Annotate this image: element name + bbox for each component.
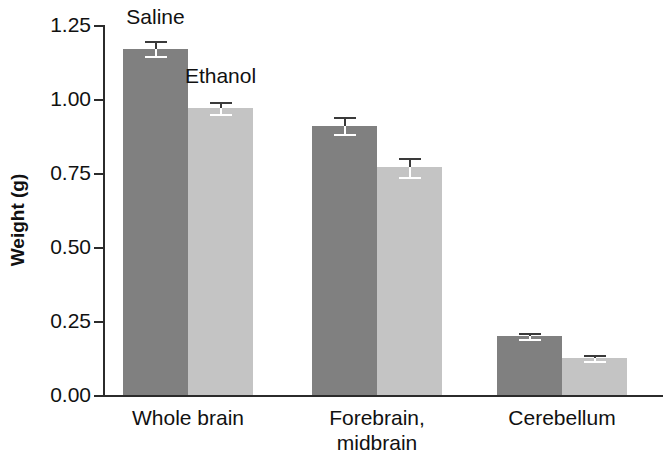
- y-tick-mark: [94, 25, 103, 27]
- error-bar-cap-lower: [210, 114, 232, 116]
- y-tick-label: 0.00: [50, 383, 91, 407]
- error-bar-cap-upper: [584, 355, 606, 357]
- y-tick-mark: [94, 321, 103, 323]
- x-axis-category-label: Whole brain: [132, 405, 244, 430]
- bar: [497, 336, 562, 395]
- x-axis-category-label-line: midbrain: [329, 430, 425, 454]
- y-axis-title: Weight (g): [0, 130, 36, 310]
- y-axis-title-text: Weight (g): [7, 174, 29, 267]
- y-tick-mark: [94, 173, 103, 175]
- x-axis-line: [103, 395, 663, 397]
- bar: [188, 108, 253, 395]
- y-tick-label: 1.00: [50, 87, 91, 111]
- y-tick-mark: [94, 247, 103, 249]
- x-axis-category-label-line: Whole brain: [132, 405, 244, 430]
- x-axis-category-label: Cerebellum: [508, 405, 615, 430]
- y-tick-label: 1.25: [50, 13, 91, 37]
- annotation-saline: Saline: [126, 5, 184, 29]
- error-bar-cap-upper: [145, 41, 167, 43]
- bar: [123, 49, 188, 395]
- error-bar-cap-upper: [399, 158, 421, 160]
- x-axis-category-label: Forebrain,midbrain: [329, 405, 425, 454]
- error-bar-cap-upper: [519, 333, 541, 335]
- annotation-ethanol: Ethanol: [185, 64, 256, 88]
- bar: [562, 358, 627, 395]
- error-bar-cap-upper: [210, 102, 232, 104]
- x-axis-category-label-line: Cerebellum: [508, 405, 615, 430]
- error-bar-cap-upper: [334, 117, 356, 119]
- error-bar-cap-lower: [145, 56, 167, 58]
- y-tick-mark: [94, 99, 103, 101]
- y-tick-mark: [94, 395, 103, 397]
- y-tick-label: 0.50: [50, 235, 91, 259]
- bar: [377, 167, 442, 395]
- y-axis-line: [103, 25, 105, 397]
- y-tick-label: 0.75: [50, 161, 91, 185]
- plot-area: 0.000.250.500.751.001.25 SalineEthanol W…: [103, 25, 663, 397]
- error-bar-cap-lower: [519, 339, 541, 341]
- error-bar-cap-lower: [584, 361, 606, 363]
- error-bar-cap-lower: [334, 134, 356, 136]
- x-axis-category-label-line: Forebrain,: [329, 405, 425, 430]
- bar: [312, 126, 377, 395]
- y-tick-label: 0.25: [50, 309, 91, 333]
- error-bar-cap-lower: [399, 177, 421, 179]
